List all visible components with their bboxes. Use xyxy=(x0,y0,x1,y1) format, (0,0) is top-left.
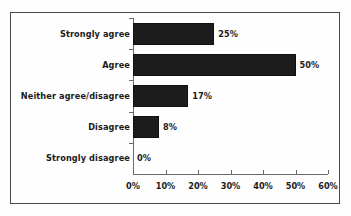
bar[interactable] xyxy=(133,54,296,76)
y-axis-tick xyxy=(129,80,133,81)
x-axis-tick-label: 60% xyxy=(308,181,348,191)
bar[interactable] xyxy=(133,23,214,45)
x-axis-tick xyxy=(328,170,329,174)
x-axis-tick xyxy=(133,170,134,174)
plot-area: 0%10%20%30%40%50%60%Strongly agree25%Agr… xyxy=(0,0,351,216)
bar-value-label: 17% xyxy=(192,91,212,101)
y-axis-tick xyxy=(129,143,133,144)
bar-value-label: 50% xyxy=(300,60,320,70)
category-label: Disagree xyxy=(88,122,130,132)
y-axis-tick xyxy=(129,49,133,50)
x-axis-tick xyxy=(263,170,264,174)
bar[interactable] xyxy=(133,116,159,138)
chart-container: 0%10%20%30%40%50%60%Strongly agree25%Agr… xyxy=(0,0,351,216)
y-axis-tick xyxy=(129,112,133,113)
bar-value-label: 0% xyxy=(137,153,151,163)
bar[interactable] xyxy=(133,85,188,107)
bar-value-label: 25% xyxy=(218,29,238,39)
category-label: Strongly agree xyxy=(60,29,130,39)
bar-value-label: 8% xyxy=(163,122,177,132)
category-label: Agree xyxy=(102,60,130,70)
category-label: Neither agree/disagree xyxy=(21,91,130,101)
x-axis-line xyxy=(133,174,328,175)
x-axis-tick xyxy=(198,170,199,174)
category-label: Strongly disagree xyxy=(46,153,130,163)
x-axis-tick xyxy=(296,170,297,174)
x-axis-tick xyxy=(166,170,167,174)
y-axis-tick xyxy=(129,18,133,19)
x-axis-tick xyxy=(231,170,232,174)
